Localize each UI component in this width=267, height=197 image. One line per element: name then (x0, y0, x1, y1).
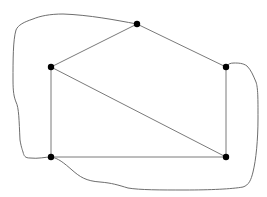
graph-vertices (48, 21, 229, 160)
edge-left-bottom-right (51, 67, 226, 157)
vertex-top (134, 21, 140, 27)
graph-edges (51, 24, 226, 157)
enclosing-closed-curve (13, 14, 258, 190)
edge-left-top (51, 24, 137, 67)
edge-top-right (137, 24, 226, 67)
vertex-left (48, 64, 54, 70)
vertex-bottom-left (48, 154, 54, 160)
vertex-right (223, 64, 229, 70)
vertex-bottom-right (223, 154, 229, 160)
graph-diagram (0, 0, 267, 197)
